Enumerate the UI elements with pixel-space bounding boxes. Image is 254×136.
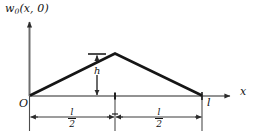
right-span-label: l 2: [150, 108, 168, 129]
origin-label: O: [19, 98, 28, 109]
left-span-numerator: l: [63, 108, 81, 118]
height-label: h: [94, 66, 100, 76]
y-axis-label-argument: (x, 0): [19, 2, 48, 15]
y-axis-label: w0(x, 0): [5, 3, 49, 16]
left-span-label: l 2: [63, 108, 81, 129]
pulse-curve: [30, 54, 202, 96]
triangular-pulse-diagram: [0, 0, 254, 136]
y-axis-label-base: w: [5, 2, 15, 15]
x-axis-label: x: [240, 86, 246, 97]
right-span-numerator: l: [150, 108, 168, 118]
right-endpoint-label: l: [207, 97, 211, 108]
left-span-denominator: 2: [63, 120, 81, 130]
figure-container: w0(x, 0) O x l h l 2 l 2: [0, 0, 254, 136]
right-span-denominator: 2: [150, 120, 168, 130]
